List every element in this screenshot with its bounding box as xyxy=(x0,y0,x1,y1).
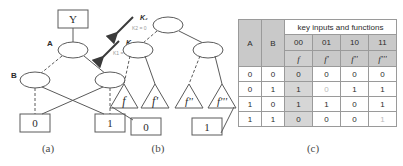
panel-a-node-b-right xyxy=(95,72,125,88)
cell-b-r0: 0 xyxy=(262,67,285,82)
panel-b-terminal-1-label: 1 xyxy=(204,121,210,133)
panel-b-k2-label: K₂ xyxy=(140,14,148,21)
panel-c-caption: (c) xyxy=(293,142,333,154)
table-row: 0 1 1 0 1 1 xyxy=(239,82,397,97)
cell-a-r1: 0 xyxy=(239,82,262,97)
header-cell-fn-f1: f' xyxy=(313,51,341,67)
header-cell-b: B xyxy=(262,20,285,67)
panel-b-edge-right-low xyxy=(189,56,200,84)
panel-b-edge-root-high xyxy=(179,31,203,43)
panel-a-node-a xyxy=(58,42,88,58)
panel-a-diagram: Y A B 0 1 xyxy=(11,10,125,132)
panel-b-triangle-f2-label: f'' xyxy=(185,95,193,107)
cell-f1-r0: 0 xyxy=(313,67,341,82)
header-cell-title: key inputs and functions xyxy=(285,20,397,35)
panel-a-root-label: Y xyxy=(69,13,77,25)
panel-b-root-node xyxy=(153,17,183,33)
truth-table: A B key inputs and functions 00 01 10 11… xyxy=(238,19,397,127)
cell-f1-r2: 1 xyxy=(313,97,341,112)
panel-b-terminal-0-label: 0 xyxy=(143,121,149,133)
table-row: 1 1 0 0 0 1 xyxy=(239,112,397,127)
cell-f2-r2: 0 xyxy=(341,97,369,112)
table-row: 0 0 0 0 0 0 xyxy=(239,67,397,82)
panel-b-triangle-f1-label: f' xyxy=(152,94,158,108)
cell-f-r1: 1 xyxy=(285,82,313,97)
panel-b-caption: (b) xyxy=(138,142,178,154)
header-cell-key-11: 11 xyxy=(369,35,397,51)
cell-a-r3: 1 xyxy=(239,112,262,127)
panel-b-edge-f3-to-1 xyxy=(221,107,234,133)
panel-b-k2-arrow xyxy=(117,17,133,33)
table-row-title: A B key inputs and functions xyxy=(239,20,397,35)
panel-a-caption: (a) xyxy=(28,142,68,154)
cell-f3-r1: 1 xyxy=(369,82,397,97)
panel-a-edge-a-low xyxy=(40,56,62,74)
panel-b-triangle-f3-label: f''' xyxy=(217,95,228,107)
panel-a-terminal-1-label: 1 xyxy=(107,117,113,129)
cell-b-r2: 0 xyxy=(262,97,285,112)
panel-b-edge-right-high xyxy=(215,56,222,84)
panel-b-edge-root-low xyxy=(143,31,157,43)
header-cell-key-10: 10 xyxy=(341,35,369,51)
cell-f-r0: 0 xyxy=(285,67,313,82)
panel-a-terminal-0-label: 0 xyxy=(32,117,38,129)
cell-f3-r0: 0 xyxy=(369,67,397,82)
panel-b-left-node xyxy=(123,42,153,58)
cell-f2-r0: 0 xyxy=(341,67,369,82)
panel-b-edge-left-high xyxy=(145,56,155,84)
cell-b-r1: 1 xyxy=(262,82,285,97)
cell-f-r2: 1 xyxy=(285,97,313,112)
cell-f2-r3: 0 xyxy=(341,112,369,127)
cell-f1-r3: 0 xyxy=(313,112,341,127)
header-cell-key-01: 01 xyxy=(313,35,341,51)
header-cell-fn-f2: f'' xyxy=(341,51,369,67)
panel-a-node-b-label: B xyxy=(11,71,17,80)
header-cell-a: A xyxy=(239,20,262,67)
cell-f3-r3: 1 xyxy=(369,112,397,127)
header-cell-key-00: 00 xyxy=(285,35,313,51)
panel-c-table-wrap: A B key inputs and functions 00 01 10 11… xyxy=(238,19,397,127)
cell-a-r2: 1 xyxy=(239,97,262,112)
panel-a-node-b-left xyxy=(20,72,50,88)
header-cell-fn-f3: f''' xyxy=(369,51,397,67)
panel-b-right-node xyxy=(193,42,223,58)
cell-b-r3: 1 xyxy=(262,112,285,127)
panel-b-k2-value: K2 = 0 xyxy=(132,25,147,31)
cell-f2-r1: 1 xyxy=(341,82,369,97)
table-row: 1 0 1 1 0 1 xyxy=(239,97,397,112)
cell-f-r3: 0 xyxy=(285,112,313,127)
panel-a-edge-a-high xyxy=(84,56,106,74)
cell-f3-r2: 1 xyxy=(369,97,397,112)
cell-a-r0: 0 xyxy=(239,67,262,82)
header-cell-fn-f: f xyxy=(285,51,313,67)
panel-a-node-a-label: A xyxy=(47,39,53,48)
cell-f1-r1: 0 xyxy=(313,82,341,97)
